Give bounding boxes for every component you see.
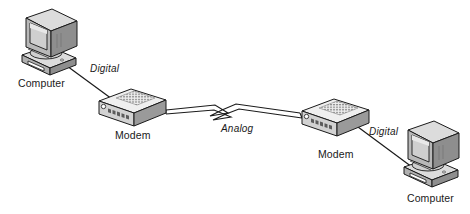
modem-left-label: Modem — [115, 130, 151, 141]
diagram-canvas: Computer Digital Modem Analog Modem Digi… — [0, 0, 470, 214]
diagram-artwork — [0, 0, 470, 214]
modem-right-label: Modem — [318, 149, 354, 160]
link-analog-line — [166, 104, 302, 120]
computer-right-graphic — [404, 121, 459, 187]
computer-right-label: Computer — [407, 193, 454, 204]
computer-left-graphic — [22, 9, 77, 75]
modem-right-graphic — [302, 99, 369, 136]
link-digital-right-label: Digital — [369, 127, 398, 137]
computer-left-label: Computer — [18, 78, 65, 89]
modem-left-graphic — [99, 89, 166, 126]
link-digital-left-label: Digital — [90, 64, 119, 74]
link-analog-label: Analog — [221, 124, 253, 134]
